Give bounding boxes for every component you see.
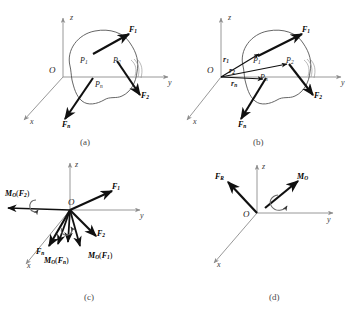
panel-a: z y x O P1 P2 Pn F1 F2 Fn (a)	[0, 0, 181, 160]
panel-c: z y x O F1 F2 Fn MO(F2) MO(Fn) MO(F1) (c…	[0, 160, 181, 320]
z-axis-label: z	[262, 163, 265, 171]
point-Pn-label: Pn	[260, 74, 268, 83]
moment-of-F2-about-O-label: MO(F2)	[5, 190, 29, 199]
point-P1-label: P1	[80, 57, 88, 66]
y-axis-label: y	[168, 79, 172, 87]
origin-label: O	[243, 210, 250, 219]
x-axis-line	[187, 77, 221, 120]
panel-c-caption: (c)	[84, 292, 94, 302]
panel-b: z y x O r1 r2 rn P1 P2 Pn F1 F2 Fn (b)	[181, 0, 362, 160]
force-F1-label: F1	[129, 26, 137, 35]
force-F1-arrow	[258, 34, 302, 56]
rigid-body-outline	[242, 30, 311, 104]
x-axis-line	[214, 213, 257, 263]
force-F2-label: F2	[141, 92, 149, 101]
rigid-body-outline	[69, 30, 138, 104]
z-axis-label: z	[228, 14, 231, 22]
panel-d-caption: (d)	[269, 292, 280, 302]
moment-of-F2-about-O-arrow	[8, 208, 70, 210]
force-F1-arrow	[93, 34, 129, 54]
panel-d: z y x O FR MO (d)	[181, 160, 362, 320]
point-Pn-label: Pn	[95, 81, 103, 90]
force-F1-label: F1	[302, 26, 310, 35]
resultant-force-FR-label: FR	[215, 173, 224, 182]
force-Fn-label: Fn	[238, 121, 246, 130]
resultant-moment-MO-label: MO	[297, 173, 308, 182]
panel-a-caption: (a)	[80, 137, 90, 147]
force-F2-arrow	[117, 61, 140, 95]
point-P1-label: P1	[253, 57, 261, 66]
panel-a-drawing	[0, 0, 181, 160]
z-axis-label: z	[75, 161, 78, 169]
z-axis-label: z	[70, 14, 73, 22]
position-vector-r1-label: r1	[223, 56, 229, 65]
origin-label: O	[68, 198, 75, 207]
origin-label: O	[207, 66, 214, 75]
x-axis-label: x	[193, 118, 197, 126]
moment-F2-curl-icon	[30, 200, 38, 212]
force-F2-arrow	[289, 64, 313, 95]
y-axis-label: y	[327, 216, 331, 224]
x-axis-label: x	[30, 118, 34, 126]
y-axis-label: y	[341, 79, 345, 87]
moment-of-Fn-about-O-label: MO(Fn)	[44, 257, 69, 266]
force-F2-label: F2	[314, 92, 322, 101]
origin-label: O	[49, 66, 56, 75]
x-axis-label: x	[27, 262, 31, 270]
force-F1-label: F1	[112, 183, 120, 192]
y-axis-label: y	[140, 212, 144, 220]
point-P2-label: P2	[113, 57, 121, 66]
force-Fn-arrow	[241, 78, 266, 119]
position-vector-r2-label: r2	[229, 67, 235, 76]
x-axis-line	[24, 77, 63, 120]
force-F1-arrow	[70, 191, 112, 210]
panel-b-caption: (b)	[253, 137, 264, 147]
position-vector-rn-label: rn	[231, 80, 237, 89]
panel-b-drawing	[181, 0, 362, 160]
point-P2-label: P2	[286, 57, 294, 66]
force-Fn-label: Fn	[62, 121, 70, 130]
force-F2-label: F2	[97, 230, 105, 239]
x-axis-label: x	[217, 261, 221, 269]
moment-of-F1-about-O-label: MO(F1)	[88, 252, 112, 261]
force-Fn-arrow	[65, 78, 93, 119]
